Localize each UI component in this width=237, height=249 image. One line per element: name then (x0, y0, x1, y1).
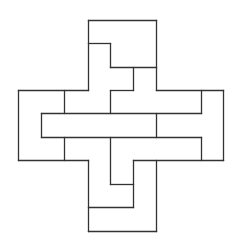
piece-outlines (19, 21, 224, 232)
cross-dissection-diagram (0, 0, 237, 249)
